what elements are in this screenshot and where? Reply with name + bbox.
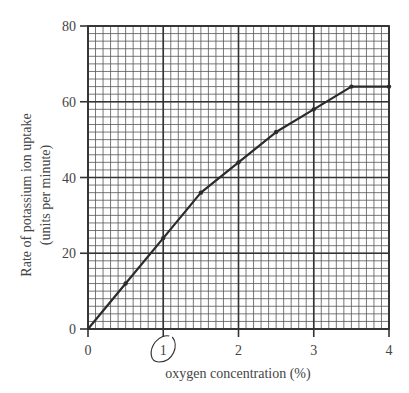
y-tick-label: 0 [69,322,76,337]
data-point [312,107,316,111]
data-point [161,236,165,240]
data-point [123,281,127,285]
y-axis-tick-labels: 020406080 [62,19,76,337]
y-tick-label: 60 [62,95,76,110]
x-axis-tick-labels: 01234 [85,343,393,358]
data-point [274,130,278,134]
x-tick-label: 4 [386,343,393,358]
x-tick-label: 0 [85,343,92,358]
x-axis-title: oxygen concentration (%) [165,366,311,382]
x-tick-label: 1 [160,343,167,358]
data-point [387,84,391,88]
data-point [236,160,240,164]
axis-ticks [80,26,389,337]
y-tick-label: 20 [62,246,76,261]
x-tick-label: 3 [310,343,317,358]
y-tick-label: 40 [62,171,76,186]
y-axis-title: Rate of potassium ion uptake (units per … [19,113,54,276]
y-axis-title-line-2: (units per minute) [38,145,54,246]
data-point [199,190,203,194]
y-axis-title-line-1: Rate of potassium ion uptake [19,113,34,276]
line-chart: 01234 020406080 oxygen concentration (%)… [0,0,409,393]
x-tick-label: 2 [235,343,242,358]
data-point [349,84,353,88]
y-tick-label: 80 [62,19,76,34]
